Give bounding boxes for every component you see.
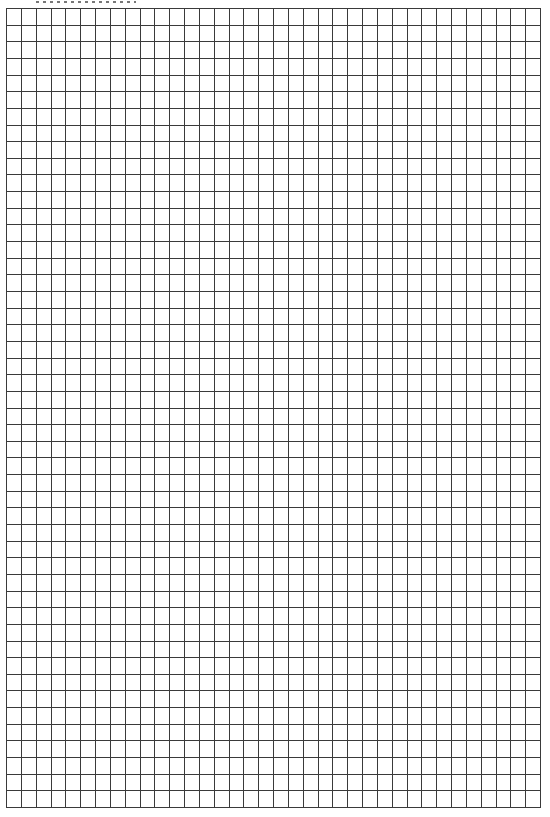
grid-lines xyxy=(6,8,541,808)
clipped-header-text xyxy=(36,0,136,3)
header-glyph-fragments xyxy=(36,0,136,3)
graph-paper-grid xyxy=(6,8,541,808)
